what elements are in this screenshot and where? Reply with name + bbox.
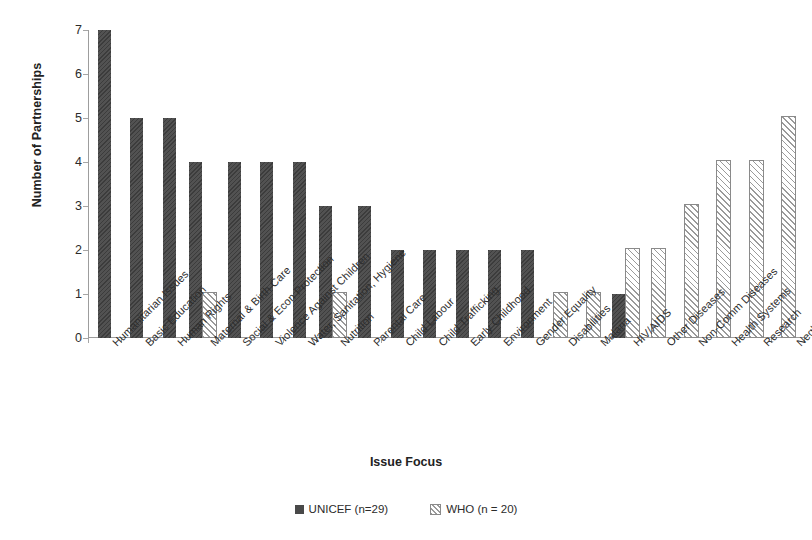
bar-unicef xyxy=(189,162,202,338)
x-tick-label: Humanitarian Issues xyxy=(110,340,118,348)
x-tick-label: Human Rights xyxy=(175,340,183,348)
x-tick-label: Research xyxy=(761,340,769,348)
y-tick-label: 0 xyxy=(58,331,82,345)
y-tick-label: 3 xyxy=(58,199,82,213)
x-tick-label: Environment xyxy=(501,340,509,348)
x-tick-label: HIV/AIDS xyxy=(631,340,639,348)
bar-who xyxy=(781,116,796,338)
category-group xyxy=(446,30,479,338)
chart-legend: UNICEF (n=29)WHO (n = 20) xyxy=(0,503,812,515)
category-group xyxy=(88,30,121,338)
y-tick-label: 6 xyxy=(58,67,82,81)
bar-unicef xyxy=(130,118,143,338)
bar-unicef xyxy=(163,118,176,338)
x-axis-title: Issue Focus xyxy=(0,455,812,469)
y-tick-label: 5 xyxy=(58,111,82,125)
legend-swatch-who xyxy=(430,504,441,515)
legend-label: WHO (n = 20) xyxy=(446,503,517,515)
legend-swatch-unicef xyxy=(295,505,304,514)
legend-label: UNICEF (n=29) xyxy=(309,503,389,515)
category-group xyxy=(381,30,414,338)
x-tick-label: Other Diseases xyxy=(664,340,672,348)
category-group xyxy=(544,30,577,338)
x-tick-label: Neglected & Tropical Diseases xyxy=(794,340,802,348)
category-group xyxy=(641,30,674,338)
x-tick-label: Malaria xyxy=(598,340,606,348)
y-axis-tick-labels: 01234567 xyxy=(58,30,82,338)
y-tick-label: 1 xyxy=(58,287,82,301)
x-tick-label: Basic Education xyxy=(143,340,151,348)
x-axis-tick-labels: Humanitarian IssuesBasic EducationHuman … xyxy=(88,340,804,450)
x-tick-label: Non-Comm Diseases xyxy=(696,340,704,348)
y-tick-label: 4 xyxy=(58,155,82,169)
x-tick-label: Child Trafficking xyxy=(436,340,444,348)
x-tick-label: Disabilities xyxy=(566,340,574,348)
x-tick-label: Nutrition xyxy=(338,340,346,348)
x-tick-label: Early Childhood xyxy=(468,340,476,348)
x-tick-label: Social & Econ Protection xyxy=(240,340,248,348)
x-tick-label: Gender Equality xyxy=(533,340,541,348)
x-tick-label: Parental Care xyxy=(371,340,379,348)
legend-item: WHO (n = 20) xyxy=(430,503,517,515)
x-tick-label: Violence Against Children xyxy=(273,340,281,348)
category-group xyxy=(121,30,154,338)
y-tick-label: 2 xyxy=(58,243,82,257)
category-group xyxy=(674,30,707,338)
bar-unicef xyxy=(98,30,111,338)
x-tick-label: Child Labour xyxy=(403,340,411,348)
x-tick-label: Health Systems xyxy=(729,340,737,348)
legend-item: UNICEF (n=29) xyxy=(295,503,389,515)
x-tick-label: Water, Sanitation, Hygiene xyxy=(306,340,314,348)
y-axis-title: Number of Partnerships xyxy=(30,25,44,245)
y-tick-label: 7 xyxy=(58,23,82,37)
x-tick-label: Maternal & Birth Care xyxy=(208,340,216,348)
category-group xyxy=(609,30,642,338)
bar-chart: Number of Partnerships 01234567 Humanita… xyxy=(0,0,812,540)
